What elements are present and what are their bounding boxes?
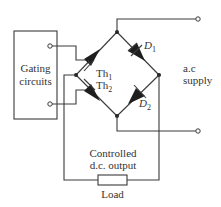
d2-label: D2 (138, 97, 151, 112)
circuit-diagram: Gating circuits Th1 Th2 D1 D2 a.c (0, 0, 221, 207)
supply-wire-top (117, 19, 196, 32)
supply-terminal-top (196, 17, 200, 21)
gating-label-line2: circuits (19, 75, 51, 87)
supply-label-line1: a.c (183, 62, 196, 74)
gate-terminal-th1 (48, 44, 52, 48)
load-resistor (98, 175, 127, 185)
gating-label-line1: Gating (21, 62, 51, 74)
supply-label-line2: supply (183, 74, 213, 86)
supply-terminal-bottom (196, 129, 200, 133)
gate-terminal-th2 (48, 102, 52, 106)
supply-wire-bottom (117, 116, 196, 131)
output-label-line2: d.c. output (90, 159, 137, 171)
d1-label: D1 (143, 39, 156, 54)
load-label: Load (101, 188, 124, 200)
output-label-line1: Controlled (89, 147, 137, 159)
